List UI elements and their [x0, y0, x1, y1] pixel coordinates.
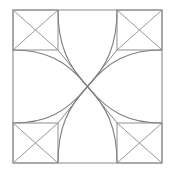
figure-canvas	[0, 0, 175, 174]
geometric-figure	[0, 0, 175, 174]
